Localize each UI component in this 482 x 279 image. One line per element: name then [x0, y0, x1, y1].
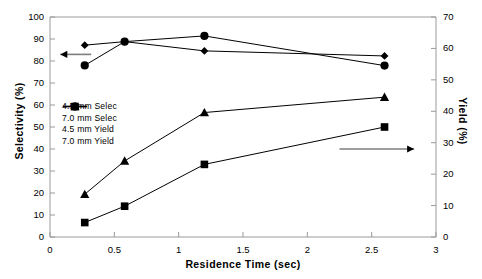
chart-figure: Selectivity (%) Yield (%) Residence Time…	[0, 0, 482, 279]
data-series-layer	[80, 32, 389, 227]
legend-marker-square-icon	[62, 101, 88, 112]
legend-label: 7.0 mm Selec	[62, 113, 117, 125]
right-axis-arrow	[340, 145, 415, 152]
chart-legend: 4.5 mm Selec7.0 mm Selec4.5 mm Yield7.0 …	[62, 101, 117, 147]
legend-item: 7.0 mm Yield	[62, 136, 117, 148]
legend-item: 7.0 mm Selec	[62, 113, 117, 125]
series-4-5-mm-selec	[81, 32, 389, 70]
series-7-0-mm-yield	[81, 123, 388, 226]
series-4-5-mm-yield	[80, 93, 389, 198]
legend-label: 4.5 mm Yield	[62, 124, 114, 136]
left-axis-arrow	[60, 51, 91, 58]
legend-item: 4.5 mm Yield	[62, 124, 117, 136]
legend-label: 7.0 mm Yield	[62, 136, 114, 148]
